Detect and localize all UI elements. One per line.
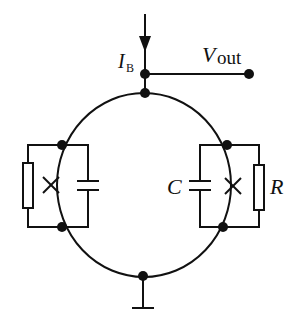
squid-circuit-diagram: I B V out C R — [0, 0, 294, 326]
superconducting-loop — [57, 93, 231, 277]
node-right-bottom — [218, 222, 228, 232]
arrow-down-icon — [139, 36, 151, 52]
left-bottom-wire — [28, 208, 62, 227]
circuit-svg: I B V out C R — [0, 0, 294, 326]
right-cap-top-wire — [200, 145, 227, 181]
right-bottom-wire — [223, 210, 259, 227]
resistor-right — [254, 165, 264, 210]
label-vout-subscript: out — [217, 47, 242, 68]
node-right-top — [222, 140, 232, 150]
label-bias-current-subscript: B — [126, 61, 134, 75]
node-left-top — [57, 140, 67, 150]
resistor-left — [23, 163, 33, 208]
label-vout: V — [202, 42, 218, 67]
left-cap-bottom-wire — [62, 191, 88, 227]
node-bias — [140, 69, 150, 79]
label-resistance: R — [269, 174, 284, 199]
label-capacitance: C — [167, 174, 182, 199]
right-top-wire — [227, 145, 259, 165]
left-cap-top-wire — [62, 145, 88, 180]
label-bias-current: I — [117, 50, 126, 72]
right-cap-bottom-wire — [200, 191, 223, 227]
terminal-vout — [244, 69, 254, 79]
node-left-bottom — [57, 222, 67, 232]
left-top-wire — [28, 145, 62, 163]
node-loop-bottom — [138, 271, 148, 281]
node-loop-top — [140, 88, 150, 98]
